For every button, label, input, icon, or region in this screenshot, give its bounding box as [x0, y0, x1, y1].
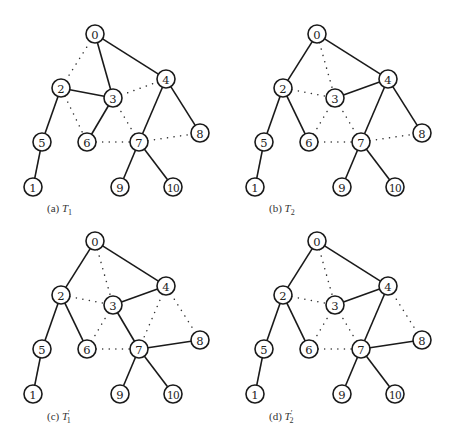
node-9: 9 — [111, 178, 129, 196]
tree-edge-4-3 — [343, 289, 379, 302]
node-label: 3 — [331, 299, 338, 313]
panel-t1-prime: 012345678910(c) T′1 — [24, 232, 209, 425]
node-label: 4 — [162, 280, 169, 294]
node-label: 2 — [279, 289, 286, 303]
tree-edge-7-9 — [346, 357, 358, 385]
node-3: 3 — [326, 89, 344, 107]
nodes: 012345678910 — [24, 25, 209, 196]
node-3: 3 — [104, 89, 122, 107]
dotted-edge-3-4 — [121, 82, 157, 95]
node-4: 4 — [379, 70, 397, 88]
node-label: 5 — [260, 343, 267, 357]
node-3: 3 — [326, 296, 344, 314]
node-label: 1 — [29, 388, 36, 402]
node-label: 10 — [167, 389, 179, 401]
tree-edge-4-7 — [143, 87, 163, 133]
panel-t2: 012345678910(b) T2 — [246, 25, 431, 217]
node-0: 0 — [86, 25, 104, 43]
tree-edge-4-7 — [365, 87, 385, 133]
node-label: 8 — [196, 127, 203, 141]
node-5: 5 — [255, 340, 273, 358]
node-2: 2 — [52, 79, 70, 97]
tree-edge-0-4 — [103, 246, 159, 281]
panel-t2-prime: 012345678910(d) T′2 — [246, 232, 431, 425]
node-6: 6 — [300, 340, 318, 358]
node-label: 7 — [135, 136, 142, 150]
dotted-edge-0-3 — [319, 250, 332, 297]
tree-edge-5-1 — [35, 358, 40, 385]
panel-caption: (d) T′2 — [269, 409, 293, 425]
node-label: 5 — [260, 136, 267, 150]
tree-edge-0-2 — [288, 249, 312, 288]
figure-canvas: 012345678910(a) T1 012345678910(b) T2 01… — [0, 0, 457, 443]
node-7: 7 — [352, 340, 370, 358]
node-label: 0 — [91, 28, 98, 42]
panel-caption: (b) T2 — [269, 202, 295, 217]
tree-edge-5-1 — [35, 151, 40, 178]
node-label: 0 — [313, 235, 320, 249]
panel-caption: (c) T′1 — [47, 409, 71, 425]
tree-edge-0-4 — [325, 39, 381, 74]
node-6: 6 — [78, 340, 96, 358]
panel-caption: (a) T1 — [47, 202, 72, 217]
node-0: 0 — [308, 232, 326, 250]
node-label: 10 — [167, 182, 179, 194]
node-label: 8 — [418, 127, 425, 141]
node-label: 0 — [91, 235, 98, 249]
tree-edge-0-2 — [288, 42, 312, 81]
node-1: 1 — [246, 178, 264, 196]
node-label: 7 — [357, 136, 364, 150]
tree-edge-2-6 — [65, 303, 83, 341]
node-label: 6 — [83, 343, 90, 357]
node-10: 10 — [386, 178, 404, 196]
tree-edge-4-7 — [365, 294, 385, 340]
dotted-edge-4-8 — [393, 294, 417, 333]
node-label: 1 — [29, 181, 36, 195]
node-5: 5 — [255, 133, 273, 151]
tree-edge-2-5 — [267, 303, 280, 340]
node-label: 5 — [38, 136, 45, 150]
dotted-edge-2-6 — [65, 96, 83, 134]
node-4: 4 — [157, 277, 175, 295]
node-0: 0 — [308, 25, 326, 43]
node-label: 4 — [384, 73, 391, 87]
tree-edge-7-10 — [366, 149, 389, 180]
tree-edge-0-2 — [66, 249, 90, 288]
dotted-edge-3-7 — [340, 106, 357, 135]
dotted-edge-2-3 — [292, 297, 326, 304]
tree-edge-3-7 — [118, 313, 135, 342]
node-10: 10 — [164, 385, 182, 403]
tree-edge-7-9 — [346, 150, 358, 178]
node-label: 3 — [331, 92, 338, 106]
node-6: 6 — [78, 133, 96, 151]
dotted-edge-0-2 — [66, 42, 90, 81]
node-label: 10 — [389, 389, 401, 401]
node-label: 7 — [357, 343, 364, 357]
dotted-edge-3-7 — [340, 313, 357, 342]
node-4: 4 — [157, 70, 175, 88]
node-label: 4 — [162, 73, 169, 87]
node-10: 10 — [164, 178, 182, 196]
node-4: 4 — [379, 277, 397, 295]
node-label: 2 — [279, 82, 286, 96]
nodes: 012345678910 — [24, 232, 209, 403]
node-label: 3 — [109, 92, 116, 106]
node-9: 9 — [333, 178, 351, 196]
tree-edge-5-1 — [257, 358, 262, 385]
edges — [257, 246, 417, 387]
dotted-edge-0-3 — [97, 250, 110, 297]
node-label: 4 — [384, 280, 391, 294]
tree-edge-4-3 — [121, 289, 157, 302]
tree-edge-2-5 — [45, 303, 58, 340]
node-8: 8 — [413, 124, 431, 142]
tree-edge-0-3 — [97, 43, 110, 90]
tree-edge-7-10 — [144, 149, 167, 180]
node-6: 6 — [300, 133, 318, 151]
node-label: 2 — [57, 289, 64, 303]
panel-t1: 012345678910(a) T1 — [24, 25, 209, 217]
tree-edge-5-1 — [257, 151, 262, 178]
tree-edge-7-9 — [124, 150, 136, 178]
node-label: 6 — [305, 343, 312, 357]
node-7: 7 — [130, 133, 148, 151]
node-7: 7 — [352, 133, 370, 151]
